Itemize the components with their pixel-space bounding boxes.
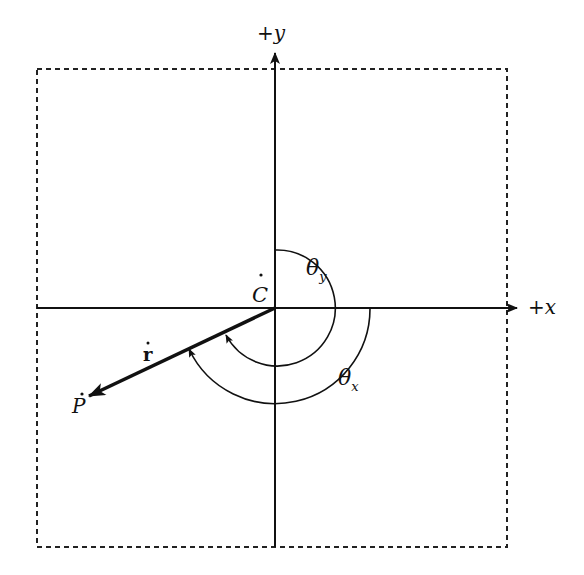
position-vector-r (89, 308, 275, 396)
point-label: P (71, 394, 86, 418)
origin-dot (259, 273, 262, 276)
theta-x-label: θx (338, 365, 359, 394)
vector-label: r (143, 344, 153, 365)
origin-label: C (252, 283, 268, 307)
theta-y-label: θy (306, 255, 327, 284)
x-axis-label: +x (528, 295, 556, 319)
direction-angles-diagram: +y +x C r P θy θx (0, 0, 584, 575)
y-axis-label: +y (257, 21, 286, 45)
